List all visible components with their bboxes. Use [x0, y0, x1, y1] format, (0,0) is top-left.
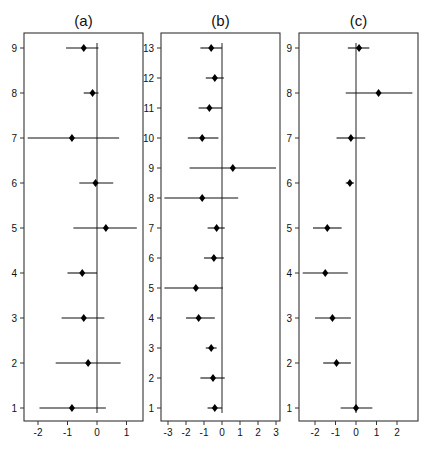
x-tick-label: 1 — [374, 427, 380, 438]
y-tick-label: 7 — [11, 133, 17, 144]
plot-frame — [299, 33, 418, 421]
y-tick-label: 12 — [143, 73, 155, 84]
y-tick-label: 3 — [11, 313, 17, 324]
point-estimate — [196, 314, 202, 322]
y-tick-label: 8 — [11, 88, 17, 99]
y-tick-label: 6 — [286, 178, 292, 189]
point-estimate — [322, 269, 328, 277]
panel-title: (b) — [211, 12, 229, 29]
point-estimate — [93, 179, 99, 187]
point-estimate — [212, 404, 218, 412]
x-tick-label: -2 — [182, 427, 191, 438]
x-tick-label: -1 — [331, 427, 340, 438]
y-tick-label: 1 — [148, 403, 154, 414]
panel-b: (b)-3-2-1012312345678910111213 — [143, 12, 280, 438]
point-estimate — [211, 254, 217, 262]
y-tick-label: 6 — [11, 178, 17, 189]
panel-title: (a) — [74, 12, 92, 29]
point-estimate — [193, 284, 199, 292]
y-tick-label: 1 — [286, 403, 292, 414]
plot-frame — [161, 33, 280, 421]
x-tick-label: 2 — [255, 427, 261, 438]
point-estimate — [347, 179, 353, 187]
point-estimate — [329, 314, 335, 322]
y-tick-label: 2 — [11, 358, 17, 369]
panel-a: (a)-2-101123456789 — [11, 12, 143, 438]
point-estimate — [348, 134, 354, 142]
y-tick-label: 9 — [11, 43, 17, 54]
y-tick-label: 10 — [143, 133, 155, 144]
x-tick-label: 1 — [237, 427, 243, 438]
x-tick-label: -3 — [164, 427, 173, 438]
y-tick-label: 4 — [11, 268, 17, 279]
point-estimate — [334, 359, 340, 367]
point-estimate — [79, 269, 85, 277]
forest-plot-figure: (a)-2-101123456789 (b)-3-2-1012312345678… — [0, 0, 435, 449]
y-tick-label: 3 — [286, 313, 292, 324]
y-tick-label: 13 — [143, 43, 155, 54]
point-estimate — [103, 224, 109, 232]
y-tick-label: 7 — [286, 133, 292, 144]
x-tick-label: 0 — [94, 427, 100, 438]
x-tick-label: 0 — [219, 427, 225, 438]
point-estimate — [81, 44, 87, 52]
y-tick-label: 11 — [144, 103, 155, 114]
x-tick-label: 3 — [273, 427, 279, 438]
panel-title: (c) — [350, 12, 368, 29]
y-tick-label: 9 — [286, 43, 292, 54]
point-estimate — [212, 74, 218, 82]
point-estimate — [208, 44, 214, 52]
point-estimate — [324, 224, 330, 232]
point-estimate — [206, 104, 212, 112]
y-tick-label: 3 — [148, 343, 154, 354]
point-estimate — [199, 134, 205, 142]
x-tick-label: 0 — [353, 427, 359, 438]
point-estimate — [85, 359, 91, 367]
point-estimate — [199, 194, 205, 202]
y-tick-label: 9 — [148, 163, 154, 174]
y-tick-label: 2 — [148, 373, 154, 384]
y-tick-label: 8 — [286, 88, 292, 99]
point-estimate — [353, 404, 359, 412]
point-estimate — [230, 164, 236, 172]
y-tick-label: 5 — [148, 283, 154, 294]
x-tick-label: -1 — [200, 427, 209, 438]
y-tick-label: 5 — [11, 223, 17, 234]
y-tick-label: 8 — [148, 193, 154, 204]
point-estimate — [69, 404, 75, 412]
y-tick-label: 2 — [286, 358, 292, 369]
x-tick-label: -2 — [311, 427, 320, 438]
point-estimate — [376, 89, 382, 97]
point-estimate — [214, 224, 220, 232]
point-estimate — [81, 314, 87, 322]
y-tick-label: 4 — [148, 313, 154, 324]
x-tick-label: 1 — [124, 427, 130, 438]
point-estimate — [90, 89, 96, 97]
point-estimate — [69, 134, 75, 142]
x-tick-label: -1 — [63, 427, 72, 438]
y-tick-label: 7 — [148, 223, 154, 234]
point-estimate — [208, 344, 214, 352]
y-tick-label: 4 — [286, 268, 292, 279]
point-estimate — [210, 374, 216, 382]
x-tick-label: 2 — [394, 427, 400, 438]
x-tick-label: -2 — [34, 427, 43, 438]
point-estimate — [356, 44, 362, 52]
y-tick-label: 1 — [11, 403, 17, 414]
panel-c: (c)-2-1012123456789 — [286, 12, 418, 438]
y-tick-label: 6 — [148, 253, 154, 264]
y-tick-label: 5 — [286, 223, 292, 234]
